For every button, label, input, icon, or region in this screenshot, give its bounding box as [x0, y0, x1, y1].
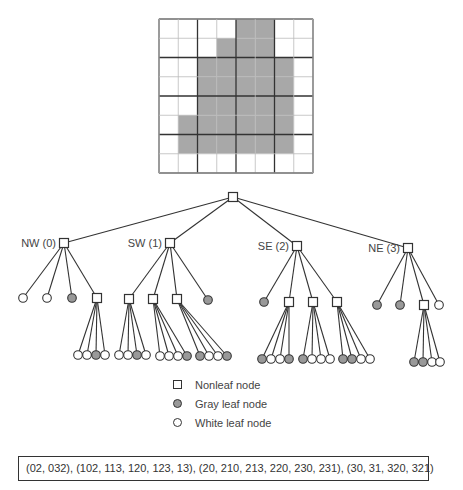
gray-leaf-node-icon: [223, 352, 232, 361]
gray-circle-icon: [173, 399, 182, 408]
tree-edge: [177, 299, 200, 356]
gray-cell: [217, 96, 236, 115]
white-cell: [217, 19, 236, 38]
white-cell: [294, 154, 313, 173]
white-cell: [159, 58, 178, 77]
tree-edge: [337, 302, 352, 359]
gray-leaf-node-icon: [299, 355, 308, 364]
legend-label: Nonleaf node: [195, 379, 260, 391]
tree-edge: [337, 302, 361, 359]
gray-leaf-node-icon: [92, 351, 101, 360]
legend-item-gray-leaf: Gray leaf node: [173, 394, 271, 413]
gray-cell: [198, 77, 217, 96]
white-cell: [294, 58, 313, 77]
tree-edge: [170, 197, 233, 243]
white-circle-icon: [173, 418, 182, 427]
gray-leaf-node-icon: [258, 355, 267, 364]
gray-leaf-node-icon: [68, 294, 77, 303]
white-cell: [178, 58, 197, 77]
tree-edge: [177, 299, 227, 356]
white-cell: [217, 154, 236, 173]
legend-label: Gray leaf node: [195, 398, 267, 410]
gray-cell: [236, 77, 255, 96]
raster-grid: [159, 19, 313, 173]
white-cell: [159, 115, 178, 134]
white-cell: [294, 96, 313, 115]
gray-cell: [236, 58, 255, 77]
tree-edge: [129, 243, 170, 299]
gray-cell: [255, 58, 274, 77]
white-cell: [159, 96, 178, 115]
gray-cell: [255, 38, 274, 57]
white-cell: [178, 154, 197, 173]
tree-edge: [96, 298, 97, 355]
tree-edge: [97, 298, 105, 355]
gray-cell: [236, 96, 255, 115]
tree-edge: [129, 299, 146, 355]
tree-edge: [377, 248, 408, 305]
white-leaf-node-icon: [142, 351, 151, 360]
gray-cell: [217, 115, 236, 134]
nonleaf-node-icon: [60, 239, 69, 248]
edges: [23, 197, 440, 362]
tree-edge: [119, 299, 129, 355]
tree-edge: [78, 298, 97, 355]
quadtree: NW (0)SW (1)SE (2)NE (3): [19, 193, 445, 367]
nonleaf-node-icon: [93, 294, 102, 303]
gray-cell: [275, 135, 294, 154]
tree-edge: [289, 246, 297, 302]
tree-edge: [414, 305, 424, 362]
gray-leaf-node-icon: [196, 352, 205, 361]
legend: Nonleaf node Gray leaf node White leaf n…: [173, 375, 271, 432]
tree-edge: [129, 299, 137, 355]
white-leaf-node-icon: [101, 351, 110, 360]
gray-cell: [255, 77, 274, 96]
nonleaf-node-icon: [166, 239, 175, 248]
quadrant-label: NE (3): [368, 242, 400, 254]
tree-edge: [408, 248, 439, 305]
gray-cell: [198, 135, 217, 154]
nonleaf-node-icon: [293, 242, 302, 251]
gray-cell: [255, 19, 274, 38]
white-cell: [255, 154, 274, 173]
gray-cell: [275, 115, 294, 134]
white-leaf-node-icon: [214, 352, 223, 361]
nonleaf-node-icon: [309, 298, 318, 307]
nonleaf-node-icon: [149, 295, 158, 304]
gray-cell: [255, 135, 274, 154]
legend-label: White leaf node: [195, 417, 271, 429]
white-cell: [198, 154, 217, 173]
white-cell: [178, 38, 197, 57]
gray-cell: [198, 58, 217, 77]
tree-edge: [408, 248, 424, 305]
tree-edge: [313, 302, 330, 359]
nonleaf-node-icon: [420, 301, 429, 310]
white-cell: [159, 154, 178, 173]
nonleaf-node-icon: [173, 295, 182, 304]
nonleaf-node-icon: [229, 193, 238, 202]
quadrant-label: NW (0): [21, 237, 56, 249]
white-cell: [159, 38, 178, 57]
white-leaf-node-icon: [357, 355, 366, 364]
gray-cell: [275, 96, 294, 115]
square-icon: [173, 380, 182, 389]
gray-cell: [178, 115, 197, 134]
white-cell: [294, 38, 313, 57]
gray-cell: [236, 135, 255, 154]
gray-leaf-node-icon: [396, 301, 405, 310]
gray-cell: [236, 115, 255, 134]
tree-edge: [177, 299, 218, 356]
tree-edge: [424, 305, 440, 362]
tree-edge: [423, 305, 424, 362]
gray-cell: [275, 77, 294, 96]
white-cell: [178, 77, 197, 96]
gray-leaf-node-icon: [348, 355, 357, 364]
gray-cell: [217, 58, 236, 77]
tree-edge: [153, 243, 170, 299]
gray-cell: [255, 96, 274, 115]
gray-cell: [178, 135, 197, 154]
tree-edge: [233, 197, 297, 246]
white-leaf-node-icon: [115, 351, 124, 360]
white-leaf-node-icon: [74, 351, 83, 360]
white-leaf-node-icon: [267, 355, 276, 364]
